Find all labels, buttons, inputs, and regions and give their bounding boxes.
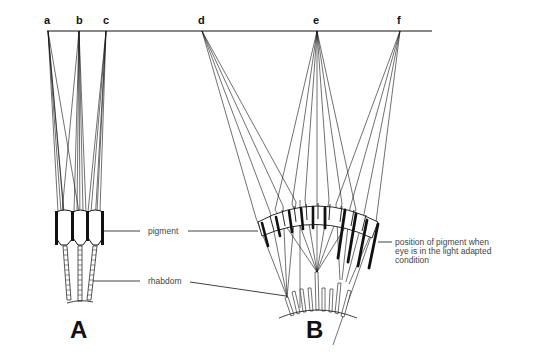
panel-a-rays [48,31,106,240]
rhabdom-callout: rhabdom [93,276,286,296]
light-adapted-label-line-3: condition [395,255,429,265]
point-label-c: c [103,14,109,26]
panel-label-a: A [70,316,87,343]
point-label-b: b [76,14,83,26]
point-label-e: e [313,14,319,26]
panel-a-rhabdoms [63,246,97,301]
panel-a-basement-membrane [67,301,93,303]
compound-eye-optics-diagram: a b c d e f [0,0,541,352]
pigment-label: pigment [148,226,179,236]
rhabdom-label: rhabdom [148,276,182,286]
panel-label-b: B [306,316,323,343]
point-label-d: d [198,14,205,26]
light-adapted-callout: position of pigment when eye is in the l… [378,237,492,265]
panel-a-ommatidia [55,210,104,245]
pigment-callout: pigment [104,226,258,236]
point-labels: a b c d e f [44,14,401,26]
point-label-a: a [44,14,51,26]
point-label-f: f [397,14,401,26]
